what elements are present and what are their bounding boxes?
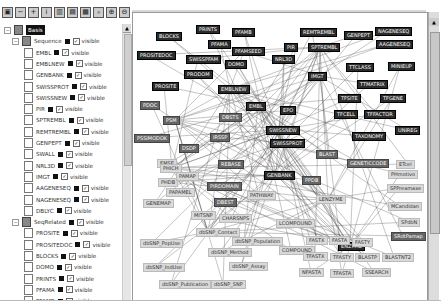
graph-node[interactable]: PRODOM — [184, 70, 213, 79]
graph-node[interactable]: DOMO — [225, 60, 247, 69]
graph-node[interactable]: SWISSPROT — [270, 139, 305, 148]
graph-node[interactable]: TTMATRIX — [357, 80, 388, 89]
graph-node[interactable]: TFASTY — [330, 253, 354, 262]
graph-node[interactable]: PHmotivo — [388, 170, 418, 179]
graph-node[interactable]: SPdbN — [398, 218, 420, 227]
graph-node[interactable]: AAGENESEQ — [376, 40, 413, 49]
graph-node[interactable]: dbSNP_SNP — [211, 280, 246, 289]
graph-node[interactable]: PIR — [284, 43, 298, 52]
graph-node[interactable]: BLASTP — [355, 253, 380, 262]
graph-node[interactable]: NFASTA — [299, 268, 324, 277]
graph-node[interactable]: PFAMSEED — [232, 47, 265, 56]
graph-node[interactable]: SPPreamaxe — [387, 184, 424, 193]
graph-node[interactable]: TFASTA — [330, 269, 354, 278]
graph-node[interactable]: dbSNP_Assay — [229, 262, 268, 271]
graph-node[interactable]: PAMAP — [176, 172, 199, 181]
graph-node[interactable]: SWISSPFAM — [186, 55, 221, 64]
graph-node[interactable]: SWISSNEW — [266, 126, 300, 135]
graph-node[interactable]: NAGENESEQ — [375, 27, 412, 36]
graph-node[interactable]: GENPEPT — [344, 31, 373, 40]
graph-node[interactable]: PFAMB — [232, 28, 255, 37]
graph-node[interactable]: dbSNP_IndUse — [143, 263, 185, 272]
graph-node[interactable]: TFFACTOR — [364, 110, 396, 119]
graph-node[interactable]: LENZYME — [316, 195, 346, 204]
graph-node[interactable]: SSEARCH — [362, 268, 391, 277]
graph-node[interactable]: SRdtPamap — [391, 232, 426, 241]
graph-node[interactable]: REBASE — [218, 160, 244, 169]
graph-node[interactable]: EMBL — [246, 102, 266, 111]
graph-node[interactable]: BLOCKS — [156, 32, 182, 41]
graph-node[interactable]: DBEST — [214, 198, 237, 207]
graph-node[interactable]: PSSIMODOK — [134, 134, 170, 143]
graph-node[interactable]: GENEMAP — [143, 199, 174, 208]
graph-node[interactable]: UNIREG — [395, 126, 420, 135]
graph-node[interactable]: MINIEUP — [388, 62, 415, 71]
graph-node[interactable]: EMBLNEW — [218, 85, 250, 94]
graph-node[interactable]: ETcel — [396, 160, 415, 169]
graph-node[interactable]: BLAST — [316, 150, 338, 159]
graph-node[interactable]: MITSNP — [191, 211, 216, 220]
graph-node[interactable]: PROSITE — [152, 82, 179, 91]
status-bar — [0, 300, 441, 308]
graph-node[interactable]: PFAMA — [208, 40, 231, 49]
graph-node[interactable]: BLASTNT2 — [382, 253, 414, 262]
graph-node[interactable]: DBSTS — [219, 113, 242, 122]
graph-node[interactable]: EPO — [280, 106, 296, 115]
graph-node[interactable]: FASTY — [352, 238, 373, 247]
graph-node[interactable]: NRL3D — [272, 55, 295, 64]
graph-node[interactable]: IMGT — [308, 72, 327, 81]
graph-node[interactable]: dbSNP_Publication — [159, 280, 211, 289]
graph-node[interactable]: SPTREMBL — [308, 43, 340, 52]
graph-node[interactable]: GENBANK — [264, 171, 295, 180]
graph-node[interactable]: TFGENE — [380, 94, 406, 103]
graph-node[interactable]: TFSITE — [338, 94, 361, 103]
graph-node[interactable]: MCandidan — [388, 202, 422, 211]
graph-node[interactable]: TTCLASS — [346, 63, 374, 72]
graph-node[interactable]: dbSNP_Method — [208, 248, 252, 257]
graph-node[interactable]: PAPAMEL — [166, 188, 195, 197]
graph-node[interactable]: FASTA — [329, 236, 350, 245]
graph-node[interactable]: FASTX — [306, 236, 328, 245]
graph-node[interactable]: TAXONOMY — [352, 132, 386, 141]
graph-node[interactable]: PROSITEDOC — [137, 51, 176, 60]
graph-node[interactable]: PPDB — [302, 176, 321, 185]
graph-node[interactable]: GENETICCODE — [347, 159, 389, 168]
graph-node[interactable]: CHARSNPS — [219, 214, 252, 223]
graph-node[interactable]: IRSSP — [210, 133, 230, 142]
graph-node[interactable]: DSDP — [179, 144, 199, 153]
graph-node[interactable]: PDOC — [140, 101, 160, 110]
graph-node[interactable]: PIRDOMAIN — [207, 182, 242, 191]
graph-node[interactable]: REMTREMBL — [300, 28, 337, 37]
graph-node[interactable]: TFASTX — [303, 252, 328, 261]
graph-node[interactable]: PATHWAY — [247, 191, 276, 200]
graph-node[interactable]: dbSNP_PopUse — [140, 239, 183, 248]
graph-node[interactable]: PRINTS — [196, 25, 220, 34]
graph-node[interactable]: TFCELL — [334, 110, 358, 119]
graph-node[interactable]: LCOMPOUND — [276, 219, 315, 228]
graph-node[interactable]: PSM — [163, 116, 180, 125]
graph-node[interactable]: dbSNP_Contact — [196, 228, 240, 237]
graph-node[interactable]: dbSNP_Population — [232, 237, 283, 246]
